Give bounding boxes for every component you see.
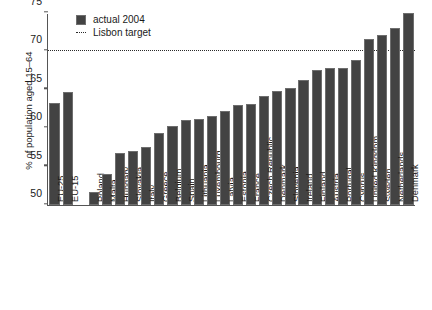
legend-item-actual-2004: actual 2004	[76, 13, 151, 26]
bar-slot: Finland	[310, 14, 323, 205]
bar-slot: Netherlands	[389, 14, 402, 205]
y-tick-label-50: 50	[30, 187, 48, 199]
y-tick-label-55: 55	[30, 149, 48, 161]
legend-label-lisbon-target: Lisbon target	[93, 26, 151, 39]
y-tick-label-75: 75	[30, 0, 48, 7]
legend-dotted-line-icon	[76, 32, 86, 33]
plot-area: 505560657075 EU-25EU-15PolandMaltaHungar…	[47, 14, 415, 206]
bar-slot: Slovenia	[284, 14, 297, 205]
bar-slot: United Kingdom	[363, 14, 376, 205]
bar-slot: Portugal	[336, 14, 349, 205]
legend-swatch-square-icon	[76, 15, 86, 25]
chart-figure: % of population aged 15–64 505560657075 …	[0, 0, 432, 310]
bar-slot: Slovakia	[127, 14, 140, 205]
bar-slot: Czech Republic	[258, 14, 271, 205]
legend-label-actual-2004: actual 2004	[93, 13, 145, 26]
bar-slot: Denmark	[402, 14, 415, 205]
bar-slot: Luxembourg	[205, 14, 218, 205]
bar-slot: Austria	[323, 14, 336, 205]
bar-slot: Ireland	[297, 14, 310, 205]
bar-slot: Estonia	[232, 14, 245, 205]
bar-slot: Spain	[179, 14, 192, 205]
bar-slot: Greece	[153, 14, 166, 205]
chart-legend: actual 2004 Lisbon target	[76, 13, 151, 39]
bar-series-actual-2004: EU-25EU-15PolandMaltaHungarySlovakiaItal…	[48, 14, 415, 205]
bar-slot: Sweden	[376, 14, 389, 205]
legend-item-lisbon-target: Lisbon target	[76, 26, 151, 39]
bar-slot: Lithuania	[192, 14, 205, 205]
bar-slot: Belgium	[166, 14, 179, 205]
bar-slot: EU-25	[48, 14, 61, 205]
x-tick-label: Denmark	[411, 164, 420, 202]
bar-slot: EU-15	[61, 14, 74, 205]
bar-slot-spacer	[74, 14, 87, 205]
bar-slot: Hungary	[114, 14, 127, 205]
y-tick-label-65: 65	[30, 72, 48, 84]
bar-slot: Denmark	[271, 14, 284, 205]
y-tick-label-70: 70	[30, 33, 48, 45]
bar-slot: Latvia	[218, 14, 231, 205]
bar-slot: Italy	[140, 14, 153, 205]
bar-slot: Cyprus	[349, 14, 362, 205]
y-tick-mark-75	[44, 11, 48, 12]
bar-slot: Malta	[100, 14, 113, 205]
y-tick-label-60: 60	[30, 110, 48, 122]
bar-slot: Poland	[87, 14, 100, 205]
bar-slot: France	[245, 14, 258, 205]
